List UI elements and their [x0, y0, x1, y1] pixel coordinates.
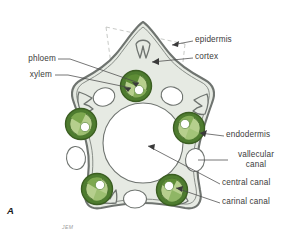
- label-carinal-canal: carinal canal: [222, 197, 270, 207]
- vascular-bundle-bottom-left: [82, 174, 113, 205]
- label-cortex: cortex: [195, 52, 218, 62]
- vascular-bundle-right: [174, 113, 205, 144]
- carinal-canal: [95, 180, 104, 189]
- artist-signature: JEM: [62, 224, 73, 230]
- carinal-canal: [164, 181, 173, 190]
- carinal-canal: [80, 122, 89, 131]
- carinal-canal: [180, 119, 189, 128]
- label-central-canal: central canal: [222, 178, 270, 188]
- figure-panel: epidermis cortex phloem xylem endodermis…: [0, 0, 302, 242]
- label-phloem: phloem: [6, 54, 56, 64]
- label-xylem: xylem: [6, 70, 52, 80]
- central-canal: [103, 103, 183, 183]
- carinal-canal: [134, 85, 143, 94]
- label-vallecular-canal: vallecular canal: [230, 150, 282, 169]
- vallecular-canal: [65, 146, 86, 171]
- label-epidermis: epidermis: [195, 35, 232, 45]
- vascular-bundle-left: [66, 109, 97, 140]
- vallecular-canal: [124, 190, 147, 208]
- label-endodermis: endodermis: [226, 130, 270, 140]
- panel-letter: A: [7, 205, 14, 216]
